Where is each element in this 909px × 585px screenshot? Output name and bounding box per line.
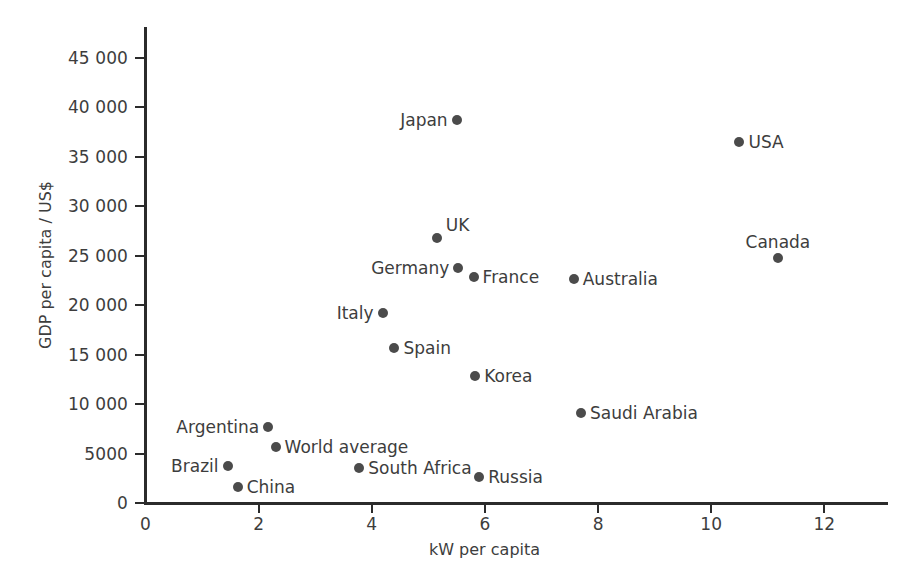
data-point-label: World average: [285, 439, 409, 456]
data-point[interactable]: [233, 482, 243, 492]
data-point[interactable]: [263, 422, 273, 432]
data-point[interactable]: [452, 115, 462, 125]
data-point[interactable]: [453, 263, 463, 273]
y-axis-title: GDP per capita / US$: [36, 180, 55, 348]
data-point-label: Japan: [400, 112, 447, 129]
data-point[interactable]: [734, 137, 744, 147]
data-point-label: USA: [748, 134, 783, 151]
x-tick-label: 12: [814, 516, 836, 533]
x-tick-label: 4: [366, 516, 377, 533]
data-point[interactable]: [432, 233, 442, 243]
x-tick-mark: [597, 504, 599, 513]
x-axis-line: [144, 502, 888, 505]
data-point[interactable]: [576, 408, 586, 418]
data-point-label: Saudi Arabia: [590, 405, 698, 422]
data-point[interactable]: [223, 461, 233, 471]
data-point-label: Russia: [488, 469, 543, 486]
y-tick-mark: [135, 205, 144, 207]
y-tick-label-text: 15 000: [68, 347, 128, 364]
data-point-label: Brazil: [171, 458, 218, 475]
x-tick-label: 10: [700, 516, 722, 533]
data-point-label: Germany: [371, 260, 449, 277]
data-point[interactable]: [354, 463, 364, 473]
data-point-label: China: [247, 479, 296, 496]
data-point[interactable]: [271, 442, 281, 452]
y-tick-label-text: 25 000: [68, 248, 128, 265]
x-axis-title: kW per capita: [0, 540, 909, 559]
data-point-label: Australia: [583, 271, 658, 288]
y-tick-label-text: 0: [117, 495, 128, 512]
x-tick-mark: [823, 504, 825, 513]
data-point-label: Argentina: [176, 419, 259, 436]
data-point-label: Italy: [337, 305, 374, 322]
data-point-label: UK: [446, 217, 470, 234]
data-point[interactable]: [773, 253, 783, 263]
data-point[interactable]: [569, 274, 579, 284]
data-point[interactable]: [474, 472, 484, 482]
y-tick-mark: [135, 453, 144, 455]
y-tick-label-text: 20 000: [68, 297, 128, 314]
y-axis-line: [144, 27, 147, 504]
x-tick-label: 2: [253, 516, 264, 533]
x-tick-label: 0: [140, 516, 151, 533]
y-tick-label-text: 5000: [84, 446, 128, 463]
y-tick-mark: [135, 255, 144, 257]
x-tick-label: 6: [479, 516, 490, 533]
y-tick-label-text: 10 000: [68, 396, 128, 413]
y-tick-label-text: 40 000: [68, 99, 128, 116]
data-point-label: Korea: [484, 368, 532, 385]
y-tick-mark: [135, 304, 144, 306]
x-axis-title-text: kW per capita: [369, 540, 540, 559]
data-point-label: France: [483, 269, 540, 286]
y-tick-label-text: 45 000: [68, 50, 128, 67]
x-tick-label: 8: [593, 516, 604, 533]
x-tick-mark: [258, 504, 260, 513]
scatter-plot: 0500010 00015 00020 00025 00030 00035 00…: [0, 0, 909, 585]
y-tick-mark: [135, 156, 144, 158]
y-tick-label-text: 35 000: [68, 149, 128, 166]
data-point-label: Spain: [403, 340, 451, 357]
y-tick-mark: [135, 354, 144, 356]
y-tick-mark: [135, 403, 144, 405]
y-tick-label-text: 30 000: [68, 198, 128, 215]
y-tick-mark: [135, 57, 144, 59]
data-point[interactable]: [389, 343, 399, 353]
data-point[interactable]: [470, 371, 480, 381]
data-point-label: South Africa: [368, 460, 471, 477]
data-point[interactable]: [378, 308, 388, 318]
x-tick-mark: [710, 504, 712, 513]
x-tick-mark: [484, 504, 486, 513]
x-tick-mark: [371, 504, 373, 513]
data-point[interactable]: [469, 272, 479, 282]
data-point-label: Canada: [746, 234, 811, 251]
y-tick-mark: [135, 502, 144, 504]
y-tick-mark: [135, 106, 144, 108]
